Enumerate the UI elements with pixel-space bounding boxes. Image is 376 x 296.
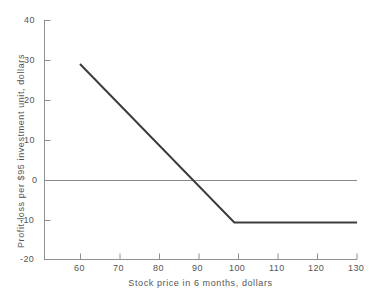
- x-axis-ticks: [81, 254, 358, 260]
- x-tick-label-70: 70: [113, 263, 124, 273]
- x-tick-label-60: 60: [74, 263, 85, 273]
- x-tick-label-110: 110: [269, 263, 285, 273]
- y-tick-label-40: 40: [24, 15, 35, 25]
- x-axis-label: Stock price in 6 months, dollars: [44, 278, 357, 288]
- x-tick-label-80: 80: [153, 263, 164, 273]
- x-tick-label-130: 130: [348, 263, 364, 273]
- x-tick-label-120: 120: [308, 263, 324, 273]
- data-series-profit-loss: [80, 64, 357, 222]
- y-axis-label: Profit-loss per $95 investment unit, dol…: [16, 54, 26, 248]
- y-axis-ticks: [45, 21, 51, 260]
- chart-figure: 40 30 20 10 0 -10 -20 60 70 80 90 100 11…: [0, 0, 376, 296]
- y-tick-label-neg20: -20: [20, 254, 34, 264]
- x-tick-label-100: 100: [229, 263, 245, 273]
- chart-plot-area: [0, 0, 376, 296]
- x-tick-label-90: 90: [192, 263, 203, 273]
- y-tick-label-0: 0: [32, 175, 37, 185]
